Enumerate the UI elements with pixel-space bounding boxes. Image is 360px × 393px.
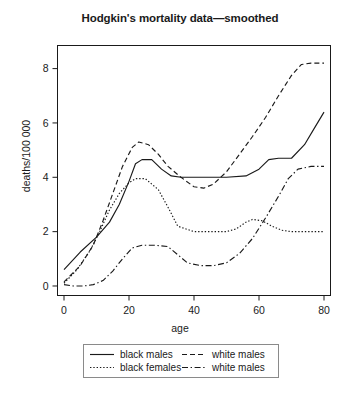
legend-key-dashed-icon: [181, 350, 207, 359]
series-line-dashdot-3: [64, 166, 324, 286]
x-axis-label: age: [0, 322, 360, 334]
legend-item-white-males-dashed[interactable]: white males: [181, 349, 273, 360]
plot-canvas: 02040608002468: [0, 0, 360, 393]
legend-key-dotted-icon: [89, 363, 115, 372]
legend-label: white males: [212, 349, 265, 360]
legend-item-black-females[interactable]: black females: [89, 362, 181, 373]
legend-row: black males white males: [89, 348, 273, 361]
y-axis-label: deaths/100 000: [20, 86, 32, 226]
x-tick-label: 60: [253, 304, 265, 316]
legend-label: black females: [120, 362, 181, 373]
y-tick-label: 8: [43, 62, 49, 74]
legend-key-dashdot-icon: [181, 363, 207, 372]
x-tick-label: 40: [188, 304, 200, 316]
legend-label: white males: [212, 362, 265, 373]
legend: black males white males black females wh…: [83, 344, 279, 378]
series-line-dotted-2: [64, 179, 324, 284]
x-tick-label: 20: [123, 304, 135, 316]
x-tick-label: 0: [61, 304, 67, 316]
y-tick-label: 0: [43, 280, 49, 292]
series-line-solid-0: [64, 112, 324, 270]
series-line-dashed-1: [64, 63, 324, 282]
legend-item-white-males-dashdot[interactable]: white males: [181, 362, 273, 373]
plot-frame: [58, 46, 331, 296]
y-tick-label: 4: [43, 171, 49, 183]
legend-item-black-males[interactable]: black males: [89, 349, 181, 360]
legend-row: black females white males: [89, 361, 273, 374]
y-tick-label: 6: [43, 117, 49, 129]
figure: Hodgkin's mortality data—smoothed 020406…: [0, 0, 360, 393]
y-tick-label: 2: [43, 225, 49, 237]
x-tick-label: 80: [318, 304, 330, 316]
legend-key-solid-icon: [89, 350, 115, 359]
legend-label: black males: [120, 349, 173, 360]
